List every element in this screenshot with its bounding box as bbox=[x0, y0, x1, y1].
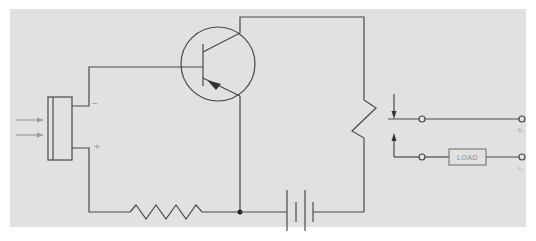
terminal-bottom-left bbox=[419, 154, 425, 160]
terminal-bottom-right bbox=[519, 154, 525, 160]
circuit-diagram: − + bbox=[0, 0, 536, 241]
terminal-top-right bbox=[519, 116, 525, 122]
photocell-negative-label: − bbox=[92, 98, 98, 109]
diagram-panel bbox=[10, 9, 526, 227]
photocell-positive-label: + bbox=[94, 141, 100, 152]
terminal-top-label: E₁ bbox=[518, 127, 524, 133]
terminal-bottom-label: L₁ bbox=[518, 165, 523, 171]
load-label: LOAD bbox=[457, 154, 478, 161]
terminal-top-left bbox=[419, 116, 425, 122]
